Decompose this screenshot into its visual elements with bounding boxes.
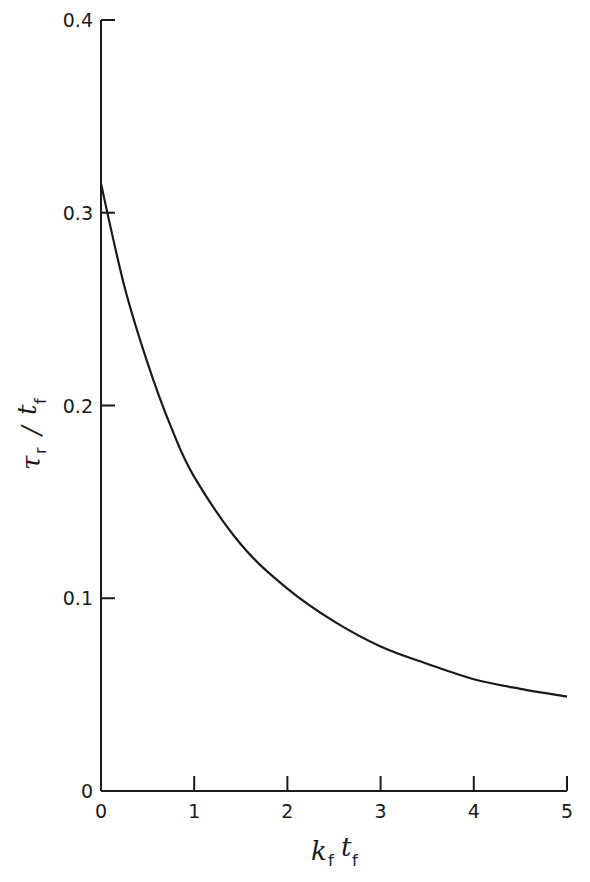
y-tick-label: 0.3 — [63, 202, 93, 224]
y-tick-label: 0.2 — [63, 395, 93, 417]
x-tick-label: 0 — [95, 800, 107, 822]
x-title-sub-f2: f — [352, 851, 358, 870]
x-title-k: k — [311, 836, 327, 866]
chart-canvas: 00.10.20.30.4 012345 k f t f τ r / t f — [0, 0, 590, 882]
data-curve — [101, 184, 567, 697]
y-title-t: t — [12, 404, 42, 415]
x-tick-label: 2 — [281, 800, 293, 822]
x-tick-label: 4 — [468, 800, 480, 822]
y-axis-title: τ r / t f — [12, 398, 50, 470]
y-title-tau: τ — [16, 455, 46, 470]
x-tick-label: 3 — [375, 800, 387, 822]
x-tick-label: 1 — [188, 800, 200, 822]
x-title-t: t — [341, 832, 352, 862]
x-tick-label: 5 — [561, 800, 573, 822]
x-tick-labels: 012345 — [95, 800, 573, 822]
y-tick-label: 0.4 — [63, 9, 93, 31]
y-title-sub-r: r — [31, 447, 50, 454]
y-tick-labels: 00.10.20.30.4 — [63, 9, 93, 802]
y-title-sub-f: f — [31, 398, 50, 404]
y-ticks — [101, 20, 115, 598]
y-tick-label: 0.1 — [63, 587, 93, 609]
x-title-sub-f: f — [328, 851, 334, 870]
y-title-slash: / — [16, 424, 46, 438]
x-axis-title: k f t f — [311, 832, 358, 870]
y-tick-label: 0 — [81, 780, 93, 802]
x-ticks — [194, 776, 567, 791]
axes — [101, 20, 567, 791]
